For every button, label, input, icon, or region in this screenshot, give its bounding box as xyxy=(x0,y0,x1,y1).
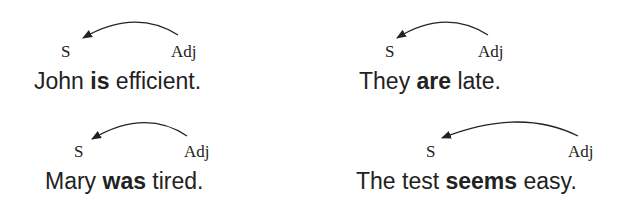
adj-label: Adj xyxy=(171,43,197,60)
adj-label: Adj xyxy=(478,43,504,60)
sentence-complement: late. xyxy=(451,68,501,94)
sentence-verb: is xyxy=(90,68,109,94)
arc-arrow-3 xyxy=(92,123,187,139)
sentence-complement: efficient. xyxy=(109,68,201,94)
subject-label: S xyxy=(385,43,394,60)
sentence-subject: They xyxy=(359,68,417,94)
example-sentence: The test seems easy. xyxy=(356,170,577,193)
arc-arrow-4 xyxy=(442,122,578,138)
sentence-verb: seems xyxy=(445,168,517,194)
sentence-verb: are xyxy=(417,68,452,94)
adj-label: Adj xyxy=(184,143,210,160)
sentence-complement: tired. xyxy=(146,168,204,194)
sentence-subject: The test xyxy=(356,168,445,194)
arc-arrow-2 xyxy=(397,22,488,38)
subject-label: S xyxy=(426,143,435,160)
sentence-verb: was xyxy=(103,168,146,194)
adj-label: Adj xyxy=(568,143,594,160)
example-sentence: Mary was tired. xyxy=(45,170,204,193)
arc-arrow-1 xyxy=(83,22,178,38)
subject-label: S xyxy=(61,43,70,60)
example-sentence: John is efficient. xyxy=(34,70,201,93)
subject-label: S xyxy=(74,143,83,160)
sentence-subject: Mary xyxy=(45,168,103,194)
sentence-subject: John xyxy=(34,68,90,94)
example-sentence: They are late. xyxy=(359,70,501,93)
sentence-complement: easy. xyxy=(517,168,577,194)
